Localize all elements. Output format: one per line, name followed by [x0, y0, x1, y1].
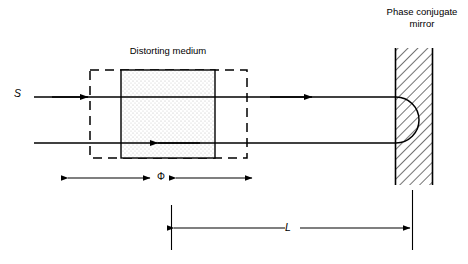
mirror-hatch-fill: [395, 48, 433, 185]
distorting-medium-label: Distorting medium: [108, 45, 228, 57]
figure-container: Phase conjugate mirror Distorting medium…: [0, 0, 468, 264]
beam-paths: [34, 97, 419, 143]
medium-core-rect: [121, 70, 215, 158]
medium-thickness-label: Φ: [157, 171, 165, 183]
distorting-medium-core: [121, 70, 215, 158]
optical-diagram: [0, 0, 468, 264]
phase-conjugate-mirror: [395, 48, 433, 185]
dimension-length: [172, 190, 413, 250]
phase-conjugate-mirror-label: Phase conjugate mirror: [376, 6, 468, 29]
propagation-distance-label: L: [285, 222, 291, 234]
source-beam-label: S: [14, 88, 21, 100]
